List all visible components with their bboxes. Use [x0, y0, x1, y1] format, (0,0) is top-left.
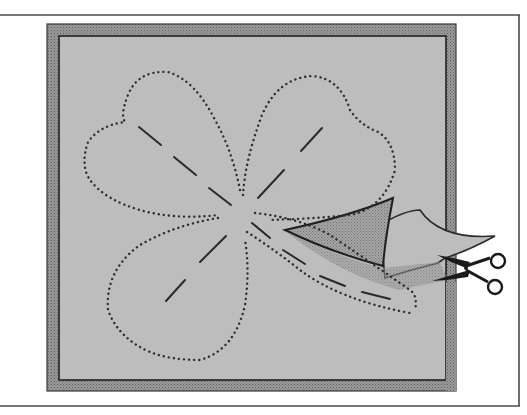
shamrock-cutting-illustration [0, 0, 527, 415]
board [47, 24, 456, 391]
